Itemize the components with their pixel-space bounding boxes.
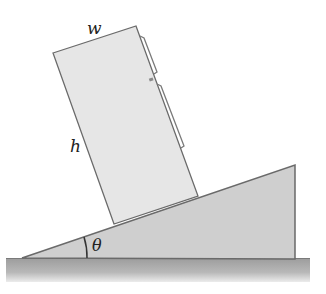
height-label: h bbox=[70, 136, 81, 156]
angle-label: θ bbox=[92, 236, 102, 255]
incline-diagram: w h θ bbox=[0, 0, 326, 294]
refrigerator-box bbox=[53, 26, 198, 224]
width-label: w bbox=[87, 18, 102, 38]
ground bbox=[6, 258, 310, 282]
